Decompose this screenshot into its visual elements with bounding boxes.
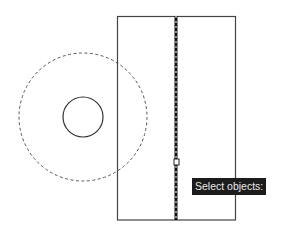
drawing-canvas[interactable]: Select objects:: [0, 0, 287, 237]
inner-circle[interactable]: [63, 97, 103, 137]
command-prompt-tooltip: Select objects:: [192, 178, 266, 195]
pickbox-cursor-icon: [174, 159, 179, 165]
outer-dashed-circle[interactable]: [19, 53, 147, 181]
drawing-svg[interactable]: [0, 0, 287, 237]
